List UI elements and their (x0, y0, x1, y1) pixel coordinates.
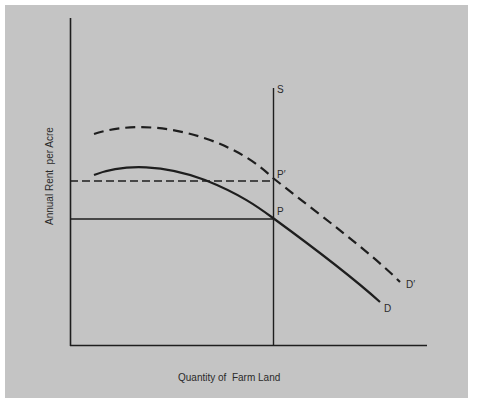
price-label-p-prime: P′ (277, 169, 286, 180)
demand-curve-d-prime (94, 127, 400, 282)
demand-label-d-prime: D′ (406, 279, 415, 290)
supply-label: S (277, 84, 284, 95)
rent-diagram: S P′ P D′ D Quantity of Farm Land Annual… (0, 0, 479, 408)
y-axis-title: Annual Rent per Acre (44, 127, 55, 225)
x-axis-title: Quantity of Farm Land (178, 372, 280, 383)
demand-curve-d (94, 167, 380, 302)
price-label-p: P (277, 206, 284, 217)
demand-label-d: D (384, 303, 391, 314)
